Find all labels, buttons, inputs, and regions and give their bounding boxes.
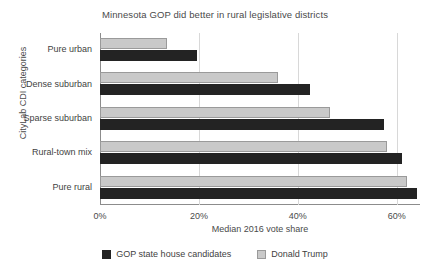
legend-swatch-icon bbox=[257, 250, 266, 259]
y-axis-labels: Pure urbanDense suburbanSparse suburbanR… bbox=[100, 33, 420, 205]
legend-item[interactable]: Donald Trump bbox=[257, 249, 328, 259]
x-axis-title: Median 2016 vote share bbox=[100, 224, 420, 234]
plot-area: Pure urbanDense suburbanSparse suburbanR… bbox=[100, 33, 420, 205]
legend-swatch-icon bbox=[102, 250, 111, 259]
x-tick-label: 60% bbox=[388, 211, 406, 221]
chart-title: Minnesota GOP did better in rural legisl… bbox=[0, 9, 430, 20]
bar-chart: Minnesota GOP did better in rural legisl… bbox=[0, 0, 430, 272]
x-tick-label: 20% bbox=[190, 211, 208, 221]
legend-label: Donald Trump bbox=[271, 249, 328, 259]
y-axis-label-sparse-suburban: Sparse suburban bbox=[0, 113, 92, 123]
x-tick-label: 40% bbox=[289, 211, 307, 221]
legend-label: GOP state house candidates bbox=[116, 249, 231, 259]
chart-legend: GOP state house candidatesDonald Trump bbox=[0, 249, 430, 259]
y-axis-label-pure-rural: Pure rural bbox=[0, 182, 92, 192]
x-tick-label: 0% bbox=[93, 211, 106, 221]
y-axis-label-pure-urban: Pure urban bbox=[0, 44, 92, 54]
legend-item[interactable]: GOP state house candidates bbox=[102, 249, 231, 259]
y-axis-label-rural-town-mix: Rural-town mix bbox=[0, 147, 92, 157]
y-axis-label-dense-suburban: Dense suburban bbox=[0, 79, 92, 89]
